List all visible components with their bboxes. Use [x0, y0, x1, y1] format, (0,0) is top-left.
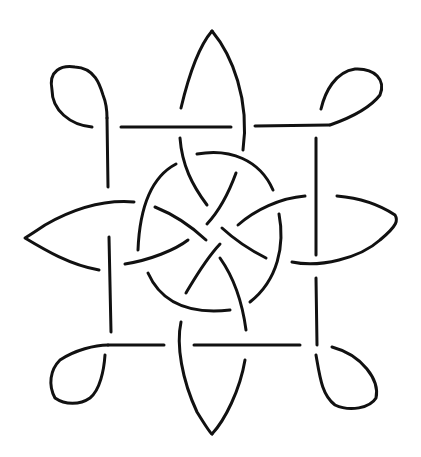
- strand-right-petal-inner: [238, 196, 305, 225]
- celtic-knot-drawing: [0, 0, 421, 457]
- strand-bottom-left-loop: [51, 345, 108, 403]
- strand-top-right-loop: [321, 69, 382, 125]
- strand-top-petal-right: [212, 31, 245, 150]
- strand-bottom-petal-inner: [220, 258, 246, 330]
- strand-top-left-loop: [51, 67, 107, 127]
- strand-spoke-3: [222, 228, 266, 258]
- strand-right-petal: [292, 196, 396, 264]
- strand-spoke-1: [155, 207, 206, 240]
- strand-left-vertical-lower: [109, 237, 111, 332]
- strand-spoke-4: [186, 244, 220, 293]
- strand-circle-top-arc: [197, 153, 273, 191]
- strand-bottom-petal-left: [179, 322, 212, 434]
- strand-top-petal-left: [181, 31, 212, 108]
- strand-circle-bottom-arc: [148, 273, 230, 311]
- strand-left-vertical-top: [107, 118, 108, 187]
- strand-left-petal: [25, 202, 134, 270]
- strand-bottom-petal-right: [212, 360, 245, 434]
- strand-spoke-2: [207, 173, 236, 224]
- strand-top-bar-right: [255, 125, 329, 126]
- strand-right-vertical-lower: [316, 278, 317, 345]
- knot-figure: [0, 0, 421, 457]
- strand-bottom-right-loop: [316, 347, 377, 409]
- strand-left-petal-inner: [125, 240, 188, 264]
- strand-top-petal-inner: [180, 138, 207, 205]
